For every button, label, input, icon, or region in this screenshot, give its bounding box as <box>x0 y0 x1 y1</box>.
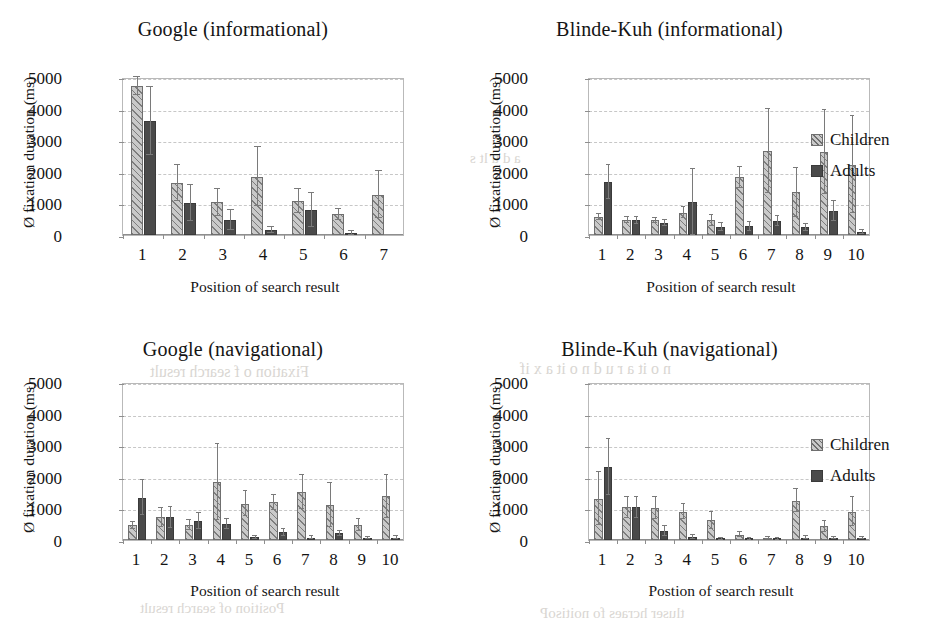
error-bar-cap <box>174 164 181 165</box>
x-tick-label: 2 <box>626 246 635 263</box>
error-bar-cap <box>803 535 808 536</box>
y-tick-label: 4000 <box>28 101 62 118</box>
error-bar-cap <box>168 527 173 528</box>
error-bar-cap <box>375 170 382 171</box>
x-axis-label: Position of search result <box>561 278 881 296</box>
error-bar <box>137 77 138 95</box>
x-tick-label: 4 <box>682 246 691 263</box>
legend-swatch-adults-icon <box>811 165 823 177</box>
y-tick-mark <box>585 510 590 511</box>
error-bar <box>796 489 797 511</box>
error-bar-cap <box>327 526 332 527</box>
plot-area <box>122 383 404 541</box>
y-tick-label: 2000 <box>494 469 528 486</box>
error-bar-cap <box>214 215 221 216</box>
error-bar-cap <box>596 213 601 214</box>
y-tick-label: 5000 <box>28 70 62 87</box>
x-tick-mark <box>786 234 787 239</box>
gridline <box>589 416 869 417</box>
x-tick-mark <box>815 539 816 544</box>
error-bar-cap <box>652 496 657 497</box>
error-bar-cap <box>267 232 274 233</box>
error-bar <box>330 483 331 527</box>
x-tick-label: 10 <box>847 246 864 263</box>
chart-legend: Children Adults <box>811 130 890 192</box>
error-bar-cap <box>606 198 611 199</box>
error-bar-cap <box>803 538 808 539</box>
x-tick-label: 10 <box>847 551 864 568</box>
y-tick-label: 3000 <box>28 133 62 150</box>
gridline <box>123 142 403 143</box>
error-bar-cap <box>365 536 370 537</box>
error-bar-cap <box>747 537 752 538</box>
y-tick-label: 4000 <box>494 406 528 423</box>
y-tick-mark <box>585 142 590 143</box>
y-axis-ticks: 010002000300040005000 <box>476 383 528 541</box>
x-tick-mark <box>204 234 205 239</box>
legend-swatch-children-icon <box>811 134 823 146</box>
legend-item-children: Children <box>811 130 890 150</box>
error-bar <box>768 109 769 194</box>
error-bar-cap <box>133 76 140 77</box>
error-bar-cap <box>822 109 827 110</box>
x-tick-mark <box>236 539 237 544</box>
error-bar-cap <box>308 192 315 193</box>
error-bar-cap <box>747 230 752 231</box>
error-bar-cap <box>327 482 332 483</box>
error-bar-cap <box>146 86 153 87</box>
error-bar <box>217 189 218 216</box>
y-tick-mark <box>119 142 124 143</box>
x-tick-label: 6 <box>739 551 748 568</box>
error-bar <box>796 168 797 217</box>
error-bar-cap <box>393 535 398 536</box>
x-tick-label: 4 <box>682 551 691 568</box>
error-bar-cap <box>308 226 315 227</box>
error-bar-cap <box>652 222 657 223</box>
error-bar-cap <box>267 226 274 227</box>
error-bar <box>636 497 637 518</box>
chart-panel-blindekuh-informational: Blinde-Kuh (informational) Ø fixation du… <box>466 0 933 320</box>
error-bar-cap <box>168 506 173 507</box>
error-bar-cap <box>850 525 855 526</box>
x-tick-mark <box>208 539 209 544</box>
x-tick-mark <box>617 539 618 544</box>
error-bar <box>627 497 628 518</box>
error-bar-cap <box>624 216 629 217</box>
y-tick-label: 5000 <box>494 70 528 87</box>
x-tick-mark <box>758 234 759 239</box>
y-tick-label: 5000 <box>494 375 528 392</box>
error-bar <box>302 475 303 509</box>
legend-item-adults: Adults <box>811 466 890 486</box>
y-tick-label: 3000 <box>494 133 528 150</box>
error-bar-cap <box>662 225 667 226</box>
error-bar-cap <box>662 219 667 220</box>
error-bar-cap <box>337 535 342 536</box>
x-tick-mark <box>786 539 787 544</box>
error-bar-cap <box>747 221 752 222</box>
error-bar <box>692 169 693 235</box>
chart-panel-google-navigational: Google (navigational) Ø fixation duratio… <box>0 320 466 631</box>
chart-panel-google-informational: Google (informational) Ø fixation durati… <box>0 0 466 320</box>
x-tick-label: 3 <box>654 246 663 263</box>
error-bar-cap <box>624 222 629 223</box>
x-tick-mark <box>349 539 350 544</box>
legend-item-children: Children <box>811 435 890 455</box>
y-tick-label: 4000 <box>28 406 62 423</box>
x-tick-label: 5 <box>711 551 720 568</box>
error-bar-cap <box>681 518 686 519</box>
x-tick-label: 5 <box>711 246 720 263</box>
error-bar-cap <box>309 538 314 539</box>
x-tick-mark <box>179 539 180 544</box>
error-bar-cap <box>765 538 770 539</box>
x-tick-label: 6 <box>739 246 748 263</box>
error-bar-cap <box>765 192 770 193</box>
x-tick-mark <box>123 539 124 544</box>
x-tick-label: 2 <box>160 551 169 568</box>
error-bar-cap <box>214 188 221 189</box>
error-bar-cap <box>747 539 752 540</box>
error-bar-cap <box>356 530 361 531</box>
error-bar-cap <box>140 479 145 480</box>
error-bar-cap <box>803 230 808 231</box>
error-bar <box>170 507 171 528</box>
error-bar-cap <box>299 474 304 475</box>
